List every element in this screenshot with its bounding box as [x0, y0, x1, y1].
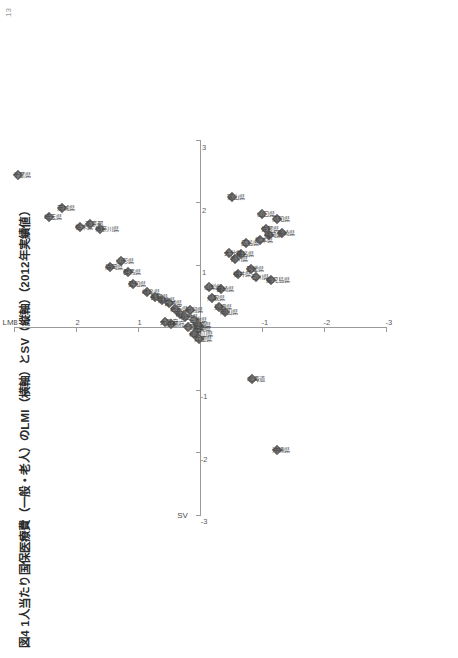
x-tick-label: 1: [202, 268, 206, 277]
data-point-label: 沖縄県: [272, 448, 290, 454]
data-point-label: 大分県: [224, 250, 242, 256]
y-tick: [138, 327, 139, 332]
scatter-plot: -3-2-1123321-1-2-3SVLMI千葉県埼玉県茨城県栃木県東京都神奈…: [0, 0, 458, 658]
x-axis-name: SV: [177, 512, 188, 521]
y-tick-label: -1: [262, 318, 269, 327]
data-point-label: 千葉以外: [183, 324, 207, 330]
y-tick: [324, 327, 325, 332]
data-point-label: 大阪府: [160, 319, 178, 325]
x-tick-label: 3: [202, 143, 206, 152]
y-tick-label: -2: [324, 318, 331, 327]
y-tick-label: 2: [76, 318, 80, 327]
data-point-label: 高知県: [272, 216, 290, 222]
data-point-label: 鳥取県: [207, 295, 225, 301]
data-point-label: 千葉県: [13, 172, 31, 178]
x-tick: [196, 140, 201, 141]
figure-rotated-container: 13 図4 1人当たり国保医療費（一般・老人）のLMI（横軸）とSV（縦軸）（2…: [0, 0, 458, 658]
x-tick-label: 2: [202, 206, 206, 215]
y-tick: [262, 327, 263, 332]
data-point-label: 埼玉県: [44, 214, 62, 220]
data-point-label: 石川県: [251, 274, 269, 280]
data-point-label: 富山県: [227, 194, 245, 200]
data-point-label: 岡山県: [220, 309, 238, 315]
data-point-label: 福井県: [233, 271, 251, 277]
data-point-label: 長崎県: [277, 230, 295, 236]
x-tick-label: -1: [201, 392, 208, 401]
y-tick-label: -3: [386, 318, 393, 327]
data-point-label: 茨城県: [57, 205, 75, 211]
data-point-label: 愛知県: [128, 281, 146, 287]
y-axis-name: LMI: [3, 318, 16, 327]
data-point-label: 神奈川県: [95, 226, 119, 232]
data-point-label: 新潟県: [185, 308, 203, 314]
y-tick: [14, 327, 15, 332]
x-tick: [196, 203, 201, 204]
x-tick: [196, 265, 201, 266]
y-tick-label: 1: [138, 318, 142, 327]
data-point-label: 北海道: [247, 376, 265, 382]
data-point-label: 山梨県: [204, 284, 222, 290]
data-point-label: 熊本県: [255, 238, 273, 244]
data-point-label: 兵庫県: [194, 336, 212, 342]
x-tick-label: -2: [201, 455, 208, 464]
y-tick: [76, 327, 77, 332]
x-tick: [196, 453, 201, 454]
x-tick-label: -3: [201, 517, 208, 526]
data-point-label: 静岡県: [105, 264, 123, 270]
y-tick: [386, 327, 387, 332]
data-point-label: 鹿児島県: [266, 278, 290, 284]
data-point-label: 群馬県: [123, 269, 141, 275]
